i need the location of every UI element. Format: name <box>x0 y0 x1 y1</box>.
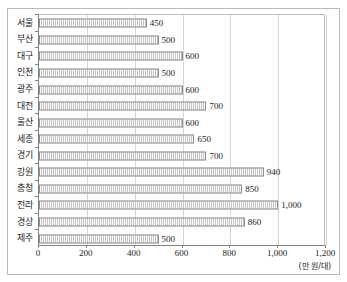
x-axis-tick-label: 600 <box>175 248 189 258</box>
y-axis-label-경기: 경기 <box>0 147 38 164</box>
bar-row: 940 <box>39 164 324 181</box>
y-axis-label-충청: 충청 <box>0 180 38 197</box>
bar-row: 600 <box>39 114 324 131</box>
bar-value-label: 500 <box>159 68 176 78</box>
bar-value-label: 1,000 <box>278 200 301 210</box>
bar[interactable] <box>39 102 206 111</box>
bar[interactable] <box>39 151 206 160</box>
y-axis-label-text: 울산 <box>17 115 38 128</box>
y-axis-label-text: 충청 <box>17 181 38 194</box>
y-axis-label-전라: 전라 <box>0 196 38 213</box>
bar-row: 450 <box>39 15 324 32</box>
x-axis-tick-label: 1,000 <box>267 248 287 258</box>
bar[interactable] <box>39 68 159 77</box>
y-axis-label-text: 전라 <box>17 198 38 211</box>
y-axis-category-labels: 서울부산대구인천광주대전울산세종경기강원충청전라경상제주 <box>0 14 38 246</box>
bar-value-label: 700 <box>206 151 223 161</box>
bar[interactable] <box>39 168 264 177</box>
y-axis-label-text: 제주 <box>17 231 38 244</box>
bar-value-label: 500 <box>159 234 176 244</box>
x-axis-tick-labels: 02004006008001,0001,200 <box>38 248 325 262</box>
y-axis-label-text: 강원 <box>17 165 38 178</box>
bar-row: 600 <box>39 48 324 65</box>
bar-row: 600 <box>39 81 324 98</box>
y-axis-label-text: 광주 <box>17 82 38 95</box>
y-axis-label-부산: 부산 <box>0 31 38 48</box>
x-axis-tick-label: 0 <box>36 248 41 258</box>
x-axis-tick-label: 400 <box>127 248 141 258</box>
y-axis-label-text: 경상 <box>17 215 38 228</box>
y-axis-label-대구: 대구 <box>0 47 38 64</box>
bar[interactable] <box>39 118 183 127</box>
y-axis-label-text: 대구 <box>17 49 38 62</box>
bar[interactable] <box>39 218 245 227</box>
bar[interactable] <box>39 184 242 193</box>
y-axis-label-광주: 광주 <box>0 80 38 97</box>
bar-value-label: 600 <box>183 85 200 95</box>
bar[interactable] <box>39 52 183 61</box>
x-axis-tick-label: 800 <box>223 248 237 258</box>
plot-area: 4505006005006007006006507009408501,00086… <box>38 14 325 246</box>
bar[interactable] <box>39 234 159 243</box>
bar-row: 700 <box>39 148 324 165</box>
bar-value-label: 860 <box>245 217 262 227</box>
y-axis-label-세종: 세종 <box>0 130 38 147</box>
bar-row: 850 <box>39 181 324 198</box>
chart-figure: 서울부산대구인천광주대전울산세종경기강원충청전라경상제주 45050060050… <box>0 0 347 282</box>
bar-value-label: 700 <box>206 101 223 111</box>
y-axis-label-대전: 대전 <box>0 97 38 114</box>
bar-value-label: 600 <box>183 118 200 128</box>
y-axis-label-강원: 강원 <box>0 163 38 180</box>
y-axis-label-인천: 인천 <box>0 64 38 81</box>
y-axis-label-text: 인천 <box>17 65 38 78</box>
bar[interactable] <box>39 19 147 28</box>
bar[interactable] <box>39 35 159 44</box>
bar-value-label: 650 <box>194 134 211 144</box>
bar-row: 500 <box>39 65 324 82</box>
bar-rows: 4505006005006007006006507009408501,00086… <box>39 15 324 245</box>
bar[interactable] <box>39 201 278 210</box>
bar[interactable] <box>39 135 194 144</box>
bar-row: 860 <box>39 214 324 231</box>
bar-row: 650 <box>39 131 324 148</box>
y-axis-label-text: 대전 <box>17 99 38 112</box>
x-axis-tick-label: 1,200 <box>315 248 335 258</box>
bar-row: 700 <box>39 98 324 115</box>
x-axis-unit-label: (만 원/대) <box>299 260 331 271</box>
y-axis-label-제주: 제주 <box>0 229 38 246</box>
bar-value-label: 940 <box>264 167 281 177</box>
bar[interactable] <box>39 85 183 94</box>
gridline <box>326 15 327 245</box>
x-axis-tick-label: 200 <box>79 248 93 258</box>
y-axis-label-경상: 경상 <box>0 213 38 230</box>
y-axis-label-서울: 서울 <box>0 14 38 31</box>
y-axis-label-text: 경기 <box>17 148 38 161</box>
bar-row: 500 <box>39 32 324 49</box>
bar-row: 1,000 <box>39 197 324 214</box>
bar-value-label: 850 <box>242 184 259 194</box>
bar-value-label: 600 <box>183 51 200 61</box>
y-axis-label-울산: 울산 <box>0 113 38 130</box>
bar-value-label: 450 <box>147 18 164 28</box>
y-axis-label-text: 부산 <box>17 32 38 45</box>
figure-title-cutoff <box>34 0 296 7</box>
bar-value-label: 500 <box>159 35 176 45</box>
y-axis-label-text: 서울 <box>17 16 38 29</box>
y-axis-label-text: 세종 <box>17 132 38 145</box>
